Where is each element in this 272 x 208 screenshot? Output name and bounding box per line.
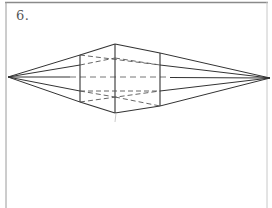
figure-label: 6. [16,8,29,23]
horizon-line [8,77,270,78]
box-edges [80,44,160,113]
perspective-diagram [0,0,272,208]
figure-frame: 6. [0,0,272,208]
construction-tick [115,113,116,122]
hidden-edges [80,55,160,106]
left-vp-lines [8,55,80,102]
right-vp-lines [160,53,270,106]
